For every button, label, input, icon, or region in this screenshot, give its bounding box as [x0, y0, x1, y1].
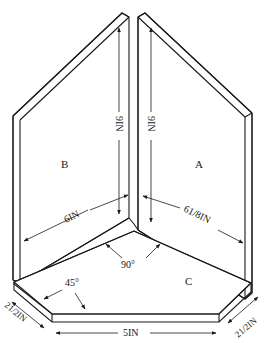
dim-b-height-label: 9IN	[114, 116, 125, 132]
angle-corner-label: 90°	[121, 259, 135, 270]
dim-right-side-label: 21/2IN	[233, 315, 259, 339]
panel-c-label: C	[185, 275, 192, 287]
dim-front-label: 5IN	[123, 327, 139, 338]
dim-a-height-label: 9IN	[146, 116, 157, 132]
shelf-assembly-diagram: 9IN 9IN B A C 6IN 61/8IN 90° 45° 5IN	[0, 0, 266, 343]
panel-a-label: A	[195, 158, 203, 170]
dim-left-side-label: 21/2IN	[3, 300, 29, 324]
dim-front: 5IN	[56, 327, 216, 338]
dim-left-side: 21/2IN	[3, 300, 44, 328]
panel-b-label: B	[61, 158, 68, 170]
dim-right-side: 21/2IN	[228, 297, 259, 340]
angle-bevel-label: 45°	[65, 277, 79, 288]
